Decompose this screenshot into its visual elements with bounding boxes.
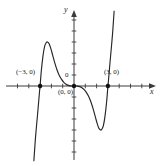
math-graph-figure: (−3, 0) (0, 0) (3, 0) 0 y x [0,0,161,166]
label-x-axis: x [150,88,154,96]
graph-canvas [0,0,161,166]
y-axis-arrowhead [71,10,77,17]
label-root-positive-three: (3, 0) [104,69,119,76]
label-root-negative-three: (−3, 0) [16,69,35,76]
label-y-axis: y [64,6,68,14]
root-point [38,84,42,88]
root-point [106,84,110,88]
label-origin-zero: 0 [65,72,69,79]
label-root-origin: (0, 0) [58,89,73,96]
